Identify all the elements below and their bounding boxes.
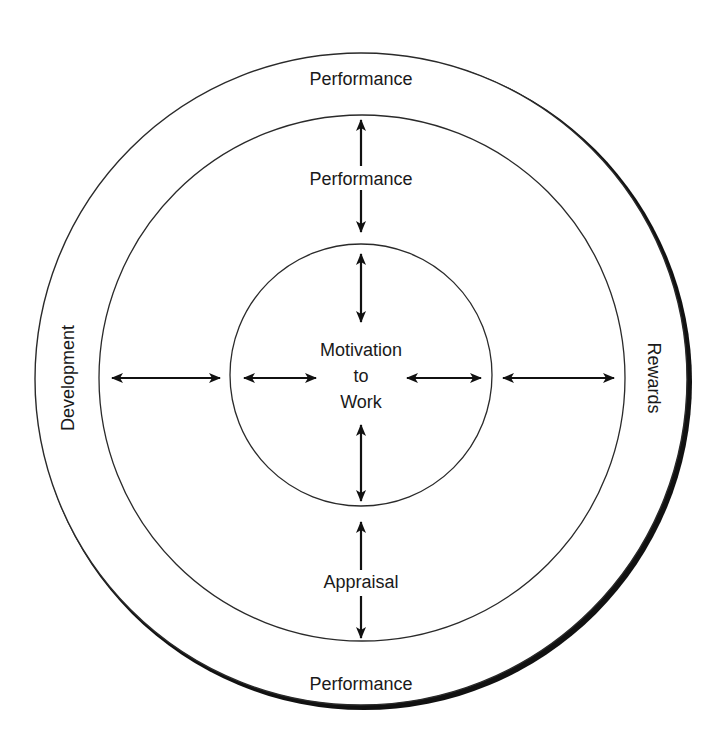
middle-bottom-label: Appraisal <box>323 573 398 591</box>
outer-right-label: Rewards <box>645 342 663 413</box>
middle-top-label: Performance <box>309 170 412 188</box>
outer-top-label: Performance <box>309 70 412 88</box>
center-label-line3: Work <box>291 389 431 415</box>
outer-left-label: Development <box>59 325 77 431</box>
center-label: Motivation to Work <box>291 337 431 415</box>
outer-bottom-label: Performance <box>309 675 412 693</box>
center-label-line1: Motivation <box>291 337 431 363</box>
center-label-line2: to <box>291 363 431 389</box>
